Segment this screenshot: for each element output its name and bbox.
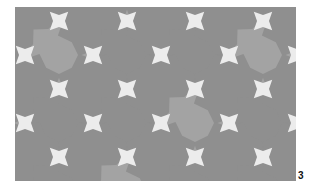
tessellation-figure: [15, 7, 296, 181]
figure-number: 3: [298, 170, 304, 181]
geometric-pattern: [15, 7, 296, 181]
